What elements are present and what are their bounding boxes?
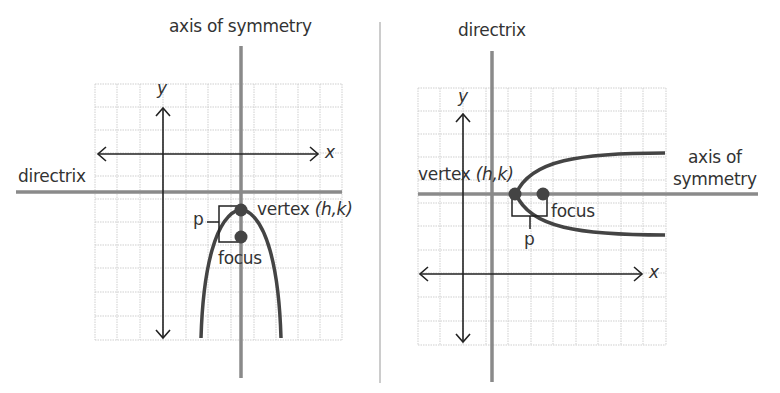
right-vertex-text: vertex (418, 164, 476, 184)
right-directrix-label: directrix (458, 22, 526, 39)
diagram-canvas (0, 0, 780, 393)
left-directrix-label: directrix (18, 168, 86, 185)
left-vertex-point (235, 204, 248, 217)
left-axis-of-symmetry-label: axis of symmetry (169, 18, 312, 35)
right-y-axis-label: y (458, 88, 468, 105)
right-focus-label: focus (551, 203, 595, 220)
right-vertex-label: vertex (h,k) (418, 166, 514, 183)
left-x-axis-label: x (325, 144, 335, 161)
right-x-axis-label: x (649, 264, 659, 281)
left-y-axis-label: y (157, 80, 167, 97)
left-vertex-coords: (h,k) (315, 199, 353, 219)
left-y-axis (156, 108, 170, 338)
left-vertex-text: vertex (257, 199, 315, 219)
right-vertex-point (509, 188, 522, 201)
right-y-axis (456, 114, 470, 342)
left-focus-label: focus (218, 250, 262, 267)
left-p-label: p (193, 211, 204, 228)
right-axis-of-symmetry-label-line1: axis of (688, 149, 742, 166)
right-focus-point (537, 188, 550, 201)
right-p-label: p (524, 231, 535, 248)
left-vertex-label: vertex (h,k) (257, 201, 353, 218)
left-focus-point (235, 231, 248, 244)
right-axis-of-symmetry-label-line2: symmetry (673, 171, 757, 188)
right-vertex-coords: (h,k) (476, 164, 514, 184)
